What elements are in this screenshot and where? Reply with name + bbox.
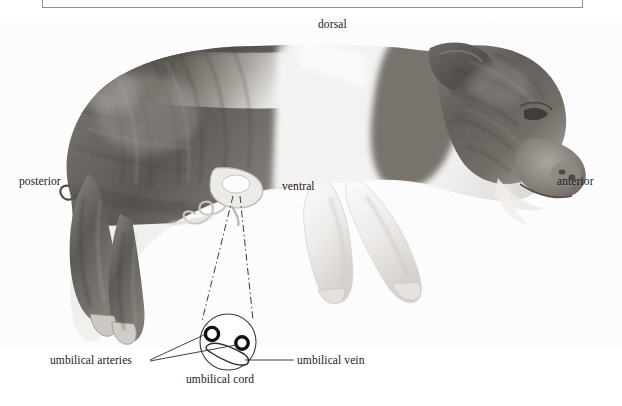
- label-ventral: ventral: [282, 180, 315, 192]
- label-posterior: posterior: [19, 175, 61, 187]
- label-dorsal: dorsal: [318, 18, 347, 30]
- label-umbilical-vein: umbilical vein: [297, 354, 365, 366]
- label-umbilical-cord: umbilical cord: [186, 373, 254, 385]
- caption-box: [42, 0, 583, 8]
- label-umbilical-arteries: umbilical arteries: [50, 354, 132, 366]
- label-anterior: anterior: [557, 175, 594, 187]
- fetal-pig-figure: dorsal ventral posterior anterior umbili…: [0, 0, 622, 406]
